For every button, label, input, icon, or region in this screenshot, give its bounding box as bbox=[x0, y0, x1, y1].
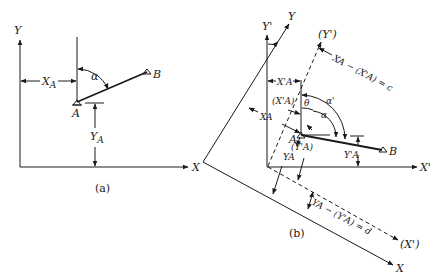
b-angle-small-arrow bbox=[307, 125, 312, 130]
b-angle-alpha-label: α bbox=[321, 110, 327, 120]
a-point-a-label: A bbox=[71, 107, 80, 120]
figure-b: Y' X' Y X (Y') (X') X'A (X'A) XA XA − (X… bbox=[203, 10, 431, 275]
b-angle-theta-arc bbox=[302, 108, 313, 110]
a-link-ab bbox=[77, 72, 147, 102]
b-dim-xa-left bbox=[249, 108, 258, 112]
b-point-b-label: B bbox=[388, 145, 397, 158]
b-caption: (b) bbox=[289, 227, 305, 240]
b-dim-xa-prime-paren-label: (X'A) bbox=[272, 96, 295, 106]
diagram-canvas: Y X XA A B α YA (a) Y' X' bbox=[0, 0, 442, 277]
b-y-axis bbox=[203, 24, 289, 162]
b-x-prime-paren-axis bbox=[268, 167, 398, 240]
b-equation-c: XA − (X'A) = c bbox=[330, 52, 394, 93]
figure-a: Y X XA A B α YA (a) bbox=[14, 24, 201, 195]
diagram-figure: Y X XA A B α YA (a) Y' X' bbox=[0, 0, 442, 277]
a-angle-alpha-label: α bbox=[91, 70, 99, 83]
b-x-axis bbox=[203, 162, 393, 265]
a-dim-ya-label: YA bbox=[90, 130, 104, 145]
b-angle-theta-label: θ bbox=[304, 98, 310, 108]
a-point-b-label: B bbox=[152, 68, 161, 81]
b-equation-d: YA − (Y'A) = d bbox=[310, 197, 373, 237]
b-y-prime-label: Y' bbox=[262, 20, 272, 33]
b-x-prime-paren-label: (X') bbox=[400, 238, 419, 251]
b-dim-ya-prime-label: Y'A bbox=[344, 150, 359, 160]
b-angle-alpha-prime-label: α' bbox=[326, 96, 335, 106]
a-dim-xa-label: XA bbox=[41, 75, 57, 90]
b-dim-xa-label: XA bbox=[259, 112, 273, 122]
b-dim-c-arrow bbox=[319, 48, 332, 55]
a-pivot-b-icon bbox=[143, 69, 151, 74]
a-y-axis-label: Y bbox=[14, 24, 23, 37]
b-x-axis-label: X bbox=[395, 262, 405, 275]
b-dim-xa-right bbox=[282, 124, 300, 133]
a-caption: (a) bbox=[95, 182, 110, 195]
b-y-prime-paren-label: (Y') bbox=[318, 28, 337, 41]
b-x-prime-label: X' bbox=[419, 161, 431, 174]
b-dim-xa-prime-paren-arrow bbox=[288, 110, 300, 114]
b-dim-ya-label: YA bbox=[283, 152, 295, 162]
b-y-axis-label: Y bbox=[288, 10, 297, 23]
b-dim-xa-prime-label: X'A bbox=[276, 77, 293, 87]
b-dim-ya-prime-paren-arrow bbox=[298, 158, 304, 180]
a-x-axis-label: X bbox=[191, 161, 201, 174]
b-link-ab bbox=[301, 135, 382, 150]
b-dim-ya-prime-paren-label: (Y'A) bbox=[291, 142, 313, 152]
